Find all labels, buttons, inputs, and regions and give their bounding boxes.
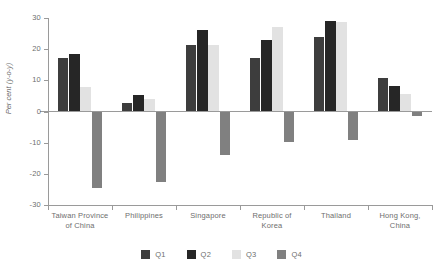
bar-q1-0 <box>58 58 69 112</box>
y-tick-label: 0 <box>15 108 41 116</box>
bar-q2-2 <box>197 30 208 112</box>
bar-q2-1 <box>133 95 144 111</box>
y-tick-label: -10 <box>15 139 41 147</box>
category-label-line: Korea <box>228 221 316 231</box>
legend-item-q1[interactable]: Q1 <box>141 250 165 259</box>
plot-area <box>48 18 432 205</box>
category-label-line: China <box>356 221 443 231</box>
bar-q1-5 <box>378 78 389 111</box>
x-tick-mark <box>112 205 113 210</box>
bar-q2-3 <box>261 40 272 112</box>
y-tick-label: 10 <box>15 76 41 84</box>
legend-swatch-icon <box>141 250 150 259</box>
category-label-line: of China <box>36 221 124 231</box>
legend-swatch-icon <box>232 250 241 259</box>
legend-item-q3[interactable]: Q3 <box>232 250 256 259</box>
y-tick-label: -20 <box>15 170 41 178</box>
legend-item-q2[interactable]: Q2 <box>187 250 211 259</box>
bar-q2-0 <box>69 54 80 111</box>
legend-item-q4[interactable]: Q4 <box>277 250 301 259</box>
x-tick-mark <box>240 205 241 210</box>
bar-q1-2 <box>186 45 197 111</box>
x-tick-mark <box>48 205 49 210</box>
legend-label: Q2 <box>201 250 211 259</box>
legend-label: Q4 <box>291 250 301 259</box>
bar-q1-4 <box>314 37 325 111</box>
chart-legend: Q1Q2Q3Q4 <box>0 250 443 259</box>
bar-q4-1 <box>156 112 167 182</box>
legend-label: Q3 <box>246 250 256 259</box>
legend-swatch-icon <box>277 250 286 259</box>
bar-q2-5 <box>389 86 400 112</box>
bar-q4-3 <box>284 112 295 143</box>
bar-q3-0 <box>80 87 91 111</box>
category-label-line: Hong Kong, <box>356 211 443 221</box>
x-tick-mark <box>368 205 369 210</box>
y-axis-title: Per cent (y-o-y) <box>4 29 13 149</box>
bar-q3-1 <box>144 99 155 111</box>
bar-q2-4 <box>325 21 336 111</box>
bar-q1-1 <box>122 103 133 111</box>
bar-q1-3 <box>250 58 261 112</box>
bar-q4-5 <box>412 112 423 116</box>
y-tick-label: 30 <box>15 14 41 22</box>
y-tick-label: 20 <box>15 45 41 53</box>
bar-q4-2 <box>220 112 231 155</box>
x-tick-mark <box>304 205 305 210</box>
category-label: Hong Kong,China <box>356 211 443 230</box>
bar-q3-2 <box>208 45 219 111</box>
legend-label: Q1 <box>155 250 165 259</box>
y-tick-label: -30 <box>15 201 41 209</box>
x-tick-mark <box>176 205 177 210</box>
bar-q3-5 <box>400 94 411 111</box>
bar-chart: 3020100-10-20-30 Per cent (y-o-y) Taiwan… <box>0 0 443 277</box>
bar-q3-3 <box>272 27 283 111</box>
bar-q3-4 <box>336 22 347 111</box>
bar-q4-0 <box>92 112 103 189</box>
legend-swatch-icon <box>187 250 196 259</box>
bar-q4-4 <box>348 112 359 141</box>
x-tick-mark <box>432 205 433 210</box>
